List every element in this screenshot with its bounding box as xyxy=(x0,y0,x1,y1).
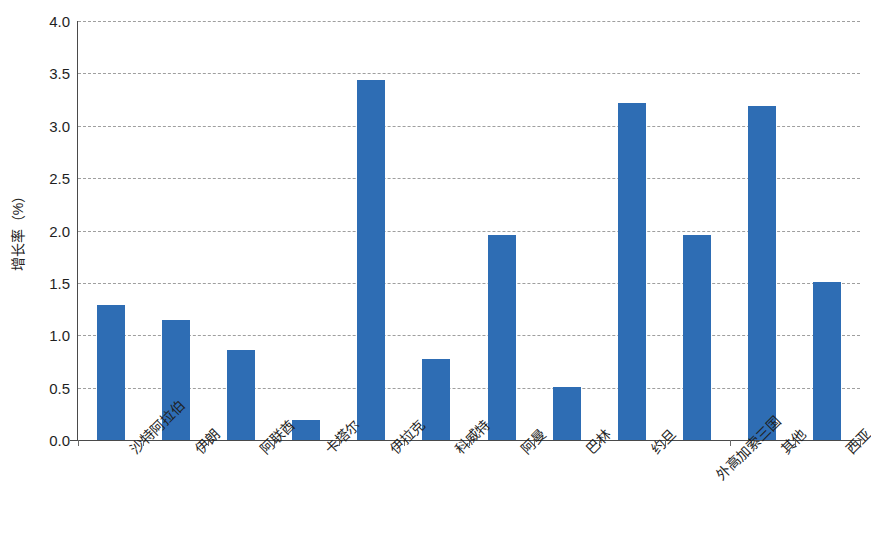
y-axis-tick-label: 4.0 xyxy=(28,13,70,30)
y-axis-tick-label: 1.0 xyxy=(28,327,70,344)
bar[interactable] xyxy=(748,106,776,440)
bar[interactable] xyxy=(813,282,841,440)
x-axis-category-label: 阿曼 xyxy=(516,444,530,458)
x-axis-category-label: 阿联酋 xyxy=(255,444,269,458)
x-axis-category-label: 伊拉克 xyxy=(385,444,399,458)
y-axis-tick-label: 0.0 xyxy=(28,432,70,449)
x-axis-category-label: 科威特 xyxy=(450,444,464,458)
bar[interactable] xyxy=(357,80,385,440)
bar[interactable] xyxy=(227,350,255,440)
x-axis-category-label: 沙特阿拉伯 xyxy=(125,444,139,458)
bar-chart: 增长率（%） 0.00.51.01.52.02.53.03.54.0 沙特阿拉伯… xyxy=(0,0,871,541)
x-axis-category-labels: 沙特阿拉伯伊朗阿联酋卡塔尔伊拉克科威特阿曼巴林约旦外高加索三国其他西亚 xyxy=(78,444,860,541)
x-axis-category-label: 其他 xyxy=(776,444,790,458)
y-axis-tick-labels: 0.00.51.01.52.02.53.03.54.0 xyxy=(20,21,70,440)
x-axis-category-label: 外高加索三国 xyxy=(711,470,725,484)
bar[interactable] xyxy=(97,305,125,440)
bars-layer xyxy=(78,21,860,440)
x-axis-category-label: 伊朗 xyxy=(190,444,204,458)
bar[interactable] xyxy=(553,387,581,440)
x-axis-category-label: 卡塔尔 xyxy=(320,444,334,458)
bar[interactable] xyxy=(683,235,711,440)
y-axis-tick-label: 3.5 xyxy=(28,65,70,82)
y-axis-tick-label: 2.0 xyxy=(28,222,70,239)
x-axis-category-label: 西亚 xyxy=(841,444,855,458)
bar[interactable] xyxy=(488,235,516,440)
y-axis-tick-label: 3.0 xyxy=(28,117,70,134)
bar[interactable] xyxy=(292,420,320,440)
y-axis-tick-label: 0.5 xyxy=(28,379,70,396)
x-axis-category-label: 巴林 xyxy=(581,444,595,458)
y-axis-tick-label: 2.5 xyxy=(28,170,70,187)
y-axis-tick-label: 1.5 xyxy=(28,274,70,291)
x-axis-category-label: 约旦 xyxy=(646,444,660,458)
bar[interactable] xyxy=(618,103,646,440)
